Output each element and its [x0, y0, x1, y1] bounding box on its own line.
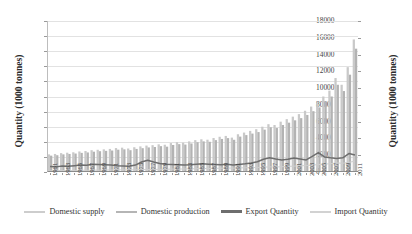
x-tick-mark: [215, 173, 216, 175]
x-tick-mark: [257, 173, 258, 175]
x-tick-mark: [184, 173, 185, 175]
x-tick-mark: [294, 173, 295, 175]
legend-swatch-icon: [116, 211, 137, 213]
y-tick-mark-right: [358, 21, 361, 22]
x-tick-mark: [196, 173, 197, 175]
x-tick-mark: [172, 173, 173, 175]
x-tick-mark: [105, 173, 106, 175]
y-tick-mark-right: [358, 138, 361, 139]
x-tick-mark: [190, 173, 191, 175]
x-tick-mark: [276, 173, 277, 175]
plot-border: [47, 21, 358, 172]
x-tick-mark: [135, 173, 136, 175]
x-tick-mark: [282, 173, 283, 175]
plot-area: [47, 21, 358, 172]
legend-swatch-icon: [221, 210, 242, 213]
x-tick-mark: [56, 173, 57, 175]
x-tick-mark: [227, 173, 228, 175]
x-tick-mark: [203, 173, 204, 175]
x-tick-mark: [349, 173, 350, 175]
x-tick-mark: [111, 173, 112, 175]
x-tick-mark: [81, 173, 82, 175]
legend-label: Domestic supply: [49, 207, 104, 216]
x-tick-mark: [93, 173, 94, 175]
x-tick-mark: [148, 173, 149, 175]
x-tick-mark: [50, 173, 51, 175]
x-tick-mark: [123, 173, 124, 175]
x-tick-mark: [251, 173, 252, 175]
chart-legend: Domestic supplyDomestic productionExport…: [0, 207, 412, 216]
legend-item[interactable]: Export Quantity: [221, 207, 299, 216]
x-tick-mark: [129, 173, 130, 175]
x-tick-mark: [117, 173, 118, 175]
y-axis-title-left: Quantity (1000 tonnes): [14, 26, 24, 176]
x-tick-mark: [74, 173, 75, 175]
y-tick-mark-right: [358, 71, 361, 72]
x-tick-mark: [233, 173, 234, 175]
legend-label: Import Quantity: [335, 207, 388, 216]
x-tick-mark: [99, 173, 100, 175]
chart-container: Quantity (1000 tonnes) Quantity (1000 to…: [0, 0, 412, 234]
x-tick-mark: [160, 173, 161, 175]
x-tick-mark: [355, 173, 356, 175]
x-tick-mark: [142, 173, 143, 175]
legend-item[interactable]: Domestic supply: [24, 207, 104, 216]
x-axis-ticks: 1961196319651967196919711973197519771979…: [47, 173, 358, 205]
x-tick-label: 2011: [357, 163, 364, 176]
x-tick-mark: [300, 173, 301, 175]
legend-swatch-icon: [310, 211, 331, 213]
y-tick-mark-right: [358, 38, 361, 39]
x-tick-mark: [154, 173, 155, 175]
y-tick-mark-right: [358, 55, 361, 56]
x-tick-mark: [318, 173, 319, 175]
x-tick-mark: [68, 173, 69, 175]
x-tick-mark: [87, 173, 88, 175]
x-tick-mark: [306, 173, 307, 175]
y-tick-mark-right: [358, 122, 361, 123]
x-tick-mark: [343, 173, 344, 175]
y-tick-mark-right: [358, 105, 361, 106]
x-tick-mark: [324, 173, 325, 175]
y-axis-title-right: Quantity (1000 tonnes): [388, 26, 398, 176]
x-tick-mark: [209, 173, 210, 175]
legend-label: Domestic production: [141, 207, 210, 216]
x-tick-mark: [331, 173, 332, 175]
x-tick-mark: [270, 173, 271, 175]
x-tick-mark: [239, 173, 240, 175]
x-tick-mark: [166, 173, 167, 175]
x-tick-mark: [178, 173, 179, 175]
legend-item[interactable]: Import Quantity: [310, 207, 388, 216]
x-tick-mark: [221, 173, 222, 175]
x-tick-mark: [62, 173, 63, 175]
legend-swatch-icon: [24, 211, 45, 213]
legend-item[interactable]: Domestic production: [116, 207, 210, 216]
x-tick-mark: [263, 173, 264, 175]
legend-label: Export Quantity: [246, 207, 299, 216]
x-tick-mark: [312, 173, 313, 175]
y-tick-mark-right: [358, 88, 361, 89]
x-tick-mark: [245, 173, 246, 175]
y-tick-mark-right: [358, 155, 361, 156]
x-tick-mark: [288, 173, 289, 175]
x-tick-mark: [337, 173, 338, 175]
